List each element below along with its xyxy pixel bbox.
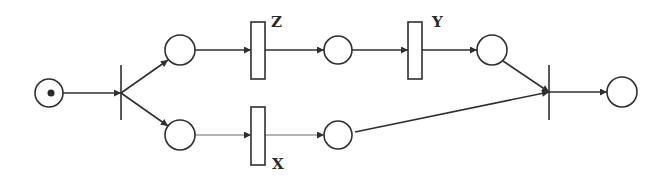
transition-y-box bbox=[408, 22, 422, 79]
place-bottom-1 bbox=[165, 120, 195, 150]
place-bottom-2 bbox=[324, 121, 352, 149]
transition-x-box bbox=[251, 107, 265, 165]
arc-bot2-to-join bbox=[355, 92, 549, 132]
place-top-2 bbox=[324, 36, 352, 64]
place-end bbox=[607, 77, 637, 107]
place-top-1 bbox=[165, 35, 195, 65]
place-top-3 bbox=[477, 35, 507, 65]
label-z: Z bbox=[271, 13, 282, 31]
token-dot bbox=[48, 90, 55, 97]
transition-z-box bbox=[251, 22, 265, 79]
label-x: X bbox=[272, 155, 284, 173]
arc-top3-to-join bbox=[503, 61, 549, 92]
petri-net-diagram: Z Y X bbox=[0, 0, 668, 181]
arc-fork-to-top1 bbox=[121, 60, 168, 93]
arc-fork-to-bot1 bbox=[121, 93, 168, 126]
label-y: Y bbox=[431, 13, 443, 31]
